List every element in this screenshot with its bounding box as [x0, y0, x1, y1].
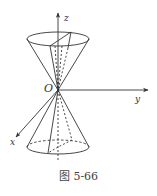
lower-cone-generator-back — [58, 90, 72, 140]
origin-label: O — [44, 83, 53, 94]
double-cone-diagram: O z y x 图 5-66 — [0, 0, 157, 196]
lower-cone-right-edge — [58, 90, 89, 147]
axes — [16, 13, 148, 162]
upper-cone-right-edge — [58, 39, 89, 90]
x-axis-label: x — [10, 138, 15, 147]
lower-cone-radius-front — [48, 147, 58, 153]
figure-caption: 图 5-66 — [0, 171, 157, 182]
upper-cone-radius — [50, 32, 71, 46]
z-axis-label: z — [64, 14, 69, 23]
y-axis-label: y — [135, 95, 140, 104]
lower-cone-radius-back — [58, 140, 72, 147]
upper-cone-generator-back — [58, 48, 68, 90]
diagram-canvas — [0, 0, 157, 196]
